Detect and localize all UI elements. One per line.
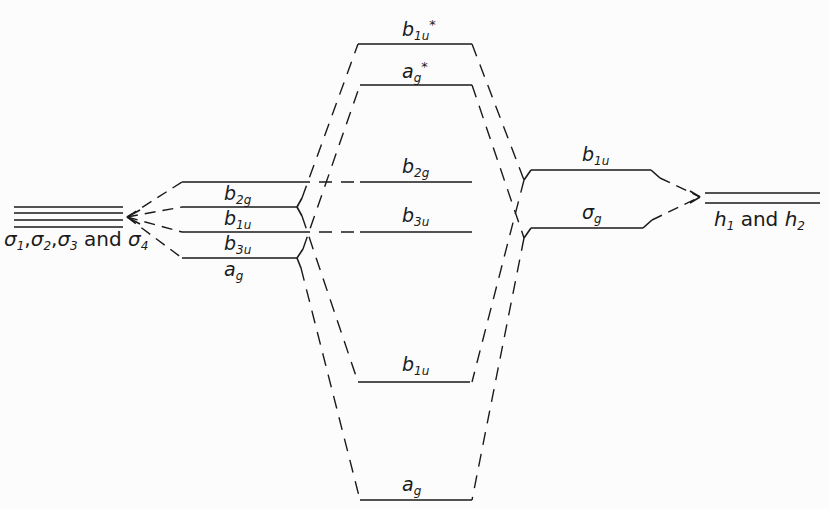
label-center-ag: ag [402, 475, 421, 497]
subscript: 2 [797, 219, 805, 233]
label-left-ag: ag [224, 260, 243, 282]
right-to-center-correlations [472, 44, 524, 500]
label-right-sigma-g: σg [582, 203, 602, 225]
sigma-symbol: σ [57, 227, 70, 251]
sigma-symbol: σ [128, 227, 141, 251]
left-fragment-label: σ1,σ2,σ3 and σ4 [4, 229, 148, 252]
label-left-b1u: b1u [224, 209, 251, 231]
label-right-b1u: b1u [582, 145, 609, 167]
sigma-symbol: σ [31, 227, 44, 251]
left-mo-levels [182, 182, 360, 258]
left-to-center-correlations [297, 44, 360, 500]
right-fragment-label: h1 and h2 [714, 209, 805, 232]
center-mo-levels [358, 44, 472, 500]
sigma-symbol: σ [4, 227, 17, 251]
subscript: 4 [141, 239, 149, 253]
subscript: 2 [43, 239, 51, 253]
left-fragment-levels [14, 207, 123, 227]
label-left-b2g: b2g [224, 184, 251, 206]
subscript: 3 [70, 239, 78, 253]
label-center-ag-star: ag* [402, 60, 428, 84]
label-center-b3u: b3u [402, 206, 429, 228]
right-fragment-levels [705, 193, 820, 203]
right-correlation-fan [652, 178, 700, 220]
h-symbol: h [785, 207, 798, 231]
label-left-b3u: b3u [224, 234, 251, 256]
h-symbol: h [714, 207, 727, 231]
label-center-b2g: b2g [402, 157, 429, 179]
conjunction: and [734, 207, 784, 231]
label-center-b1u: b1u [402, 355, 429, 377]
conjunction: and [78, 227, 128, 251]
label-center-b1u-star: b1u* [402, 18, 436, 42]
